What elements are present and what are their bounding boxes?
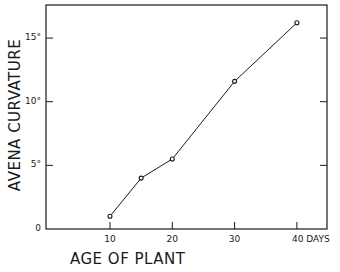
y-tick-label: 0 <box>19 223 41 233</box>
data-point-marker <box>295 21 299 25</box>
data-point-marker <box>139 176 143 180</box>
chart: AVENA CURVATURE AGE OF PLANT 15°10°5°0 1… <box>0 0 340 272</box>
y-ticks <box>46 38 327 165</box>
x-tick-label: 10 <box>104 234 115 244</box>
y-tick-label: 15° <box>19 32 41 42</box>
y-tick-label: 5° <box>19 159 41 169</box>
data-point-marker <box>233 79 237 83</box>
x-tick-label: 20 <box>167 234 178 244</box>
data-point-marker <box>108 214 112 218</box>
x-axis-label: AGE OF PLANT <box>70 250 185 268</box>
axes-frame <box>46 5 327 229</box>
x-tick-label: 40 DAYS <box>292 234 330 244</box>
plot-area <box>0 0 340 272</box>
data-point-marker <box>170 157 174 161</box>
x-ticks <box>110 222 297 229</box>
data-line <box>110 23 297 216</box>
y-tick-label: 10° <box>19 96 41 106</box>
x-tick-label: 30 <box>229 234 240 244</box>
